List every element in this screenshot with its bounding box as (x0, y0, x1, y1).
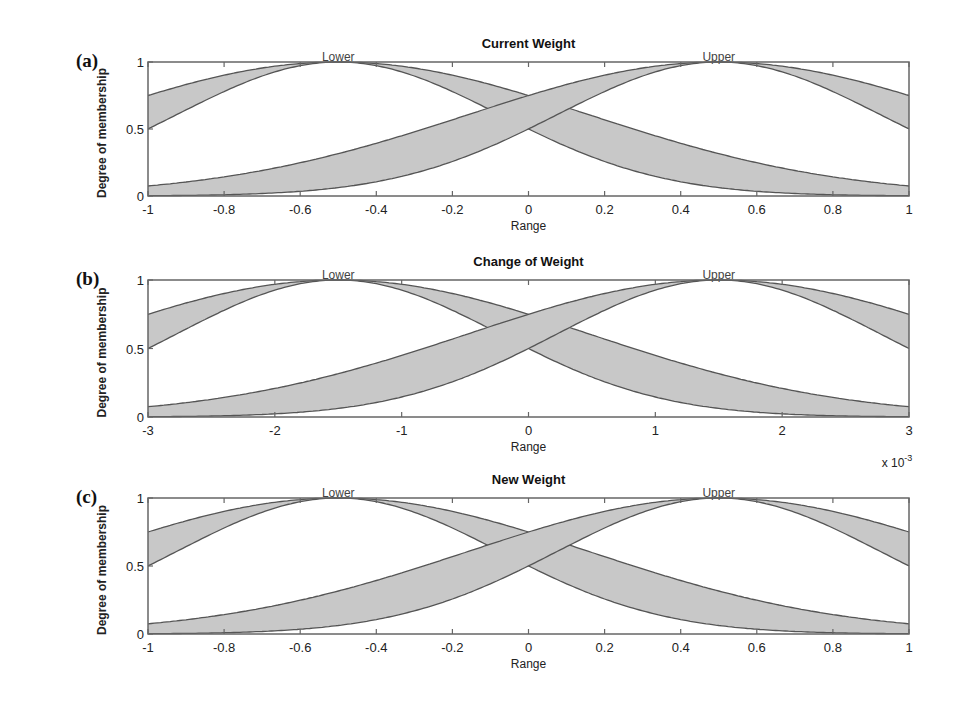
x-axis-multiplier: x 10-3 (882, 453, 913, 470)
chart-title: Change of Weight (473, 254, 584, 269)
x-tick-label: 0.6 (748, 640, 766, 655)
chart-panel-c: (c)New WeightDegree of membershipLowerUp… (76, 472, 913, 671)
y-tick-label: 0.5 (126, 559, 144, 574)
y-tick-label: 1 (137, 55, 144, 70)
x-axis-label: Range (511, 219, 547, 233)
y-axis-label: Degree of membership (95, 287, 109, 417)
x-tick-label: -0.2 (441, 202, 463, 217)
x-axis-label: Range (511, 657, 547, 671)
x-tick-label: 0.4 (672, 202, 690, 217)
x-tick-label: 0 (525, 202, 532, 217)
x-tick-label: -0.4 (365, 202, 387, 217)
x-tick-label: 0.8 (824, 640, 842, 655)
x-tick-label: -0.4 (365, 640, 387, 655)
x-tick-label: 0.8 (824, 202, 842, 217)
x-tick-label: -0.8 (213, 202, 235, 217)
x-tick-label: 1 (652, 423, 659, 438)
y-tick-label: 1 (137, 273, 144, 288)
y-axis-label: Degree of membership (95, 505, 109, 635)
y-tick-label: 0.5 (126, 122, 144, 137)
x-tick-label: -3 (142, 423, 154, 438)
x-axis-label: Range (511, 440, 547, 454)
x-tick-label: 2 (779, 423, 786, 438)
y-tick-label: 0.5 (126, 342, 144, 357)
panel-label: (b) (76, 268, 99, 290)
panel-label: (c) (76, 486, 97, 508)
x-tick-label: 0.2 (596, 640, 614, 655)
x-tick-label: 1 (905, 640, 912, 655)
chart-title: New Weight (492, 472, 566, 487)
chart-panel-b: (b)Change of WeightDegree of membershipL… (76, 254, 913, 470)
x-tick-label: 1 (905, 202, 912, 217)
x-tick-label: -2 (269, 423, 281, 438)
y-tick-label: 1 (137, 491, 144, 506)
y-tick-label: 0 (137, 410, 144, 425)
x-tick-label: 0.4 (672, 640, 690, 655)
y-tick-label: 0 (137, 189, 144, 204)
x-tick-label: 0 (525, 640, 532, 655)
x-tick-label: 3 (905, 423, 912, 438)
x-tick-label: 0.2 (596, 202, 614, 217)
y-tick-label: 0 (137, 627, 144, 642)
x-tick-label: -1 (396, 423, 408, 438)
chart-panel-a: (a)Current WeightDegree of membershipLow… (76, 36, 913, 233)
x-tick-label: -0.8 (213, 640, 235, 655)
figure: (a)Current WeightDegree of membershipLow… (0, 0, 960, 705)
y-axis-label: Degree of membership (95, 68, 109, 198)
x-tick-label: -0.6 (289, 640, 311, 655)
x-tick-label: -1 (142, 202, 154, 217)
x-tick-label: 0 (525, 423, 532, 438)
x-tick-label: -0.2 (441, 640, 463, 655)
chart-title: Current Weight (482, 36, 576, 51)
x-tick-label: -1 (142, 640, 154, 655)
x-tick-label: -0.6 (289, 202, 311, 217)
x-tick-label: 0.6 (748, 202, 766, 217)
